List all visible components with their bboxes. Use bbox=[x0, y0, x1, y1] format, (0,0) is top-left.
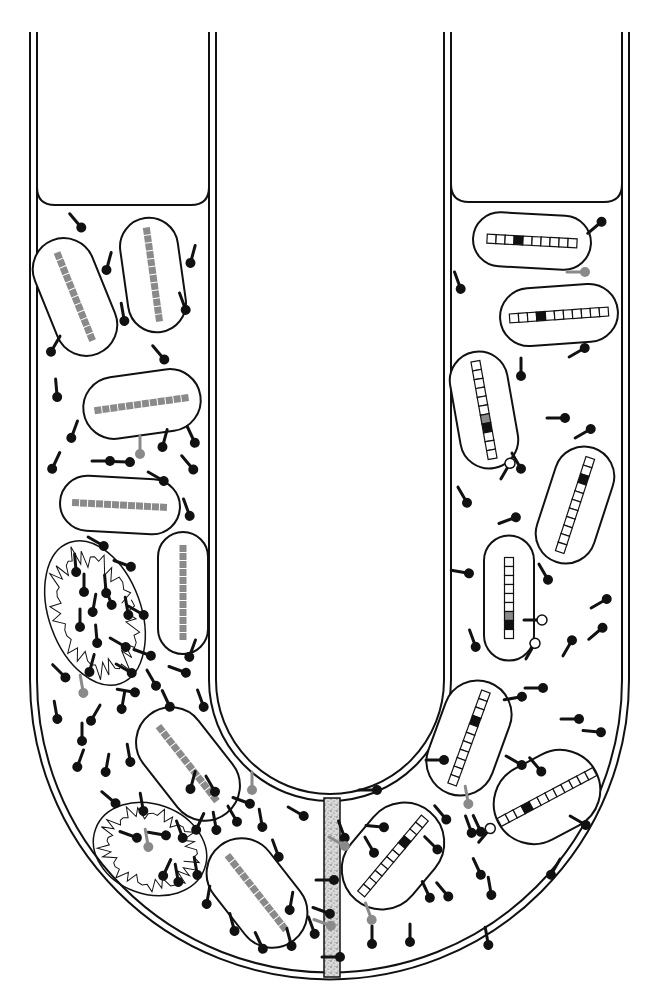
gene-segment bbox=[150, 275, 158, 283]
gene-segment bbox=[144, 235, 152, 243]
gene-segment bbox=[180, 577, 187, 584]
gene-segment bbox=[527, 312, 537, 322]
phage-head bbox=[367, 939, 377, 949]
gene-segment bbox=[590, 308, 600, 318]
left-liquid-meniscus bbox=[37, 187, 209, 205]
gene-segment bbox=[505, 612, 514, 621]
gene-segment bbox=[180, 617, 187, 624]
gene-segment bbox=[581, 308, 591, 318]
phage bbox=[450, 565, 474, 579]
phage-head bbox=[87, 606, 99, 618]
phage-head bbox=[580, 267, 590, 277]
phage bbox=[193, 688, 210, 713]
phage-head bbox=[100, 766, 112, 778]
gene-segment bbox=[120, 502, 127, 509]
gene-segment bbox=[180, 609, 187, 616]
gene-segment bbox=[143, 227, 151, 235]
phage bbox=[75, 609, 85, 632]
gene-segment bbox=[505, 567, 514, 576]
filter-membrane-body bbox=[324, 798, 340, 977]
phage bbox=[189, 856, 203, 880]
phage-head bbox=[469, 640, 482, 653]
phage-head bbox=[129, 687, 141, 699]
phage-head bbox=[183, 509, 196, 522]
phage-head bbox=[509, 511, 522, 524]
gene-segment bbox=[152, 290, 160, 298]
gene-segment bbox=[523, 236, 532, 245]
phage-head bbox=[465, 826, 478, 839]
filter-membrane bbox=[324, 798, 340, 977]
phage-head bbox=[335, 952, 345, 962]
phage-head bbox=[365, 913, 378, 926]
gene-segment bbox=[518, 313, 528, 323]
phage bbox=[84, 703, 104, 728]
gene-segment bbox=[112, 501, 119, 508]
phage-head bbox=[157, 869, 170, 882]
gene-segment bbox=[118, 403, 126, 411]
gene-segment bbox=[144, 503, 151, 510]
phage bbox=[51, 379, 63, 403]
phage bbox=[433, 880, 455, 904]
phage-head bbox=[460, 496, 474, 510]
phage-head bbox=[329, 875, 339, 885]
phage-head bbox=[125, 756, 137, 768]
gene-segment bbox=[136, 502, 143, 509]
phage bbox=[405, 924, 415, 947]
gene-segment bbox=[142, 400, 150, 408]
phage-head bbox=[474, 868, 487, 881]
phage bbox=[79, 574, 89, 597]
gene-segment bbox=[496, 235, 505, 244]
bacterial-cell bbox=[472, 211, 593, 271]
gene-segment bbox=[568, 238, 577, 247]
gene-segment bbox=[160, 504, 167, 511]
phage bbox=[91, 625, 103, 649]
phage-head bbox=[44, 345, 58, 359]
phage-head bbox=[544, 868, 558, 882]
phage-head bbox=[197, 700, 210, 713]
phage-head bbox=[79, 587, 89, 597]
phage bbox=[66, 211, 88, 235]
gene-segment bbox=[541, 237, 550, 246]
gene-segment bbox=[180, 633, 187, 640]
gene-segment bbox=[80, 499, 87, 506]
gene-segment bbox=[94, 406, 102, 414]
gene-segment bbox=[157, 397, 165, 405]
phage-head bbox=[596, 727, 607, 738]
gene-segment bbox=[146, 251, 154, 259]
gene-segment bbox=[155, 314, 163, 322]
phage-head bbox=[119, 640, 133, 654]
gene-segment bbox=[128, 502, 135, 509]
phage bbox=[469, 856, 488, 881]
phage-head bbox=[230, 815, 244, 829]
phage bbox=[71, 748, 88, 773]
phage-head bbox=[308, 927, 321, 940]
gene-segment bbox=[505, 630, 514, 639]
phage-head bbox=[192, 869, 204, 881]
phage-head bbox=[483, 939, 495, 951]
gene-segment bbox=[545, 311, 555, 321]
gene-segment bbox=[88, 500, 95, 507]
phage-head bbox=[188, 436, 201, 449]
gene-segment bbox=[72, 499, 79, 506]
bacterial-cell bbox=[192, 824, 321, 962]
bacterial-cell bbox=[484, 536, 534, 661]
phage bbox=[367, 926, 377, 949]
phage bbox=[149, 343, 171, 367]
gene-segment bbox=[180, 601, 187, 608]
phage-head bbox=[257, 821, 269, 833]
phage bbox=[254, 808, 268, 832]
phage-head bbox=[176, 831, 189, 844]
phage bbox=[589, 592, 614, 612]
phage bbox=[77, 723, 87, 746]
gene-segment bbox=[153, 298, 161, 306]
gene-segment bbox=[180, 553, 187, 560]
phage-head bbox=[247, 785, 257, 795]
phage-head bbox=[538, 683, 548, 693]
gene-segment bbox=[505, 594, 514, 603]
phage bbox=[454, 485, 474, 510]
phage-head bbox=[600, 592, 614, 606]
phage bbox=[585, 215, 609, 237]
gene-segment bbox=[509, 313, 519, 323]
phage bbox=[561, 714, 584, 724]
u-tube-illustration bbox=[0, 0, 660, 1007]
